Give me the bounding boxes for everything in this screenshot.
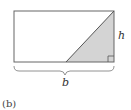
height-label: h [118, 29, 125, 42]
base-brace [14, 66, 114, 75]
rectangle-triangle-diagram: h b (b) [0, 0, 131, 110]
base-label: b [62, 76, 69, 89]
figure-caption: (b) [2, 98, 16, 109]
